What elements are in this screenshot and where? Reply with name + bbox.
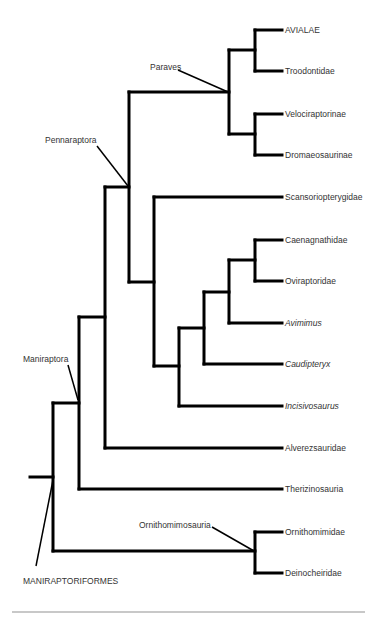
taxon-avialae: AVIALAE [285,25,320,35]
pointer-maniraptora [68,365,78,400]
taxon-labels: AVIALAETroodontidaeVelociraptorinaeDroma… [284,25,363,578]
node-paraves [229,50,255,134]
pointer-maniraptoriformes [36,480,53,566]
taxon-troodontidae: Troodontidae [285,66,335,76]
clade-label-ornithomimosauria: Ornithomimosauria [139,520,211,530]
pointer-paraves [178,70,228,92]
taxon-scansoriopterygidae: Scansoriopterygidae [285,192,363,202]
taxon-therizinosauria: Therizinosauria [285,484,343,494]
taxon-caenagnathidae: Caenagnathidae [285,235,348,245]
node-avialae-troodontidae [255,30,282,71]
cladogram-branches [30,30,282,573]
node-with-caudipteryx [204,292,282,364]
node-ornithomimosauria [255,532,282,573]
node-dromaeosauridae [255,114,282,155]
cladogram: AVIALAETroodontidaeVelociraptorinaeDroma… [0,0,376,625]
taxon-oviraptoridae: Oviraptoridae [285,276,336,286]
node-penna-alvarez [105,187,282,448]
clade-labels: ParavesPennaraptoraManiraptoraOrnithomim… [23,62,211,586]
taxon-incisivosaurus: Incisivosaurus [285,401,340,411]
clade-label-pennaraptora: Pennaraptora [45,135,97,145]
clade-label-maniraptoriformes: MANIRAPTORIFORMES [23,576,119,586]
clade-label-maniraptora: Maniraptora [23,354,69,364]
node-pennaraptora [129,92,229,282]
taxon-ornithomimidae: Ornithomimidae [285,527,345,537]
pointer-pennaraptora [97,146,128,186]
taxon-velociraptorinae: Velociraptorinae [285,109,346,119]
clade-label-paraves: Paraves [150,62,181,72]
pointer-ornithomimosauria [212,527,254,551]
taxon-caudipteryx: Caudipteryx [285,359,331,369]
taxon-dromaeosaurinae: Dromaeosaurinae [285,150,353,160]
node-oviraptorosauria [179,328,282,406]
taxon-deinocheiridae: Deinocheiridae [285,568,342,578]
taxon-avimimus: Avimimus [284,318,322,328]
taxon-alverezsauridae: Alverezsauridae [285,443,346,453]
node-caen-ovi [255,240,282,281]
